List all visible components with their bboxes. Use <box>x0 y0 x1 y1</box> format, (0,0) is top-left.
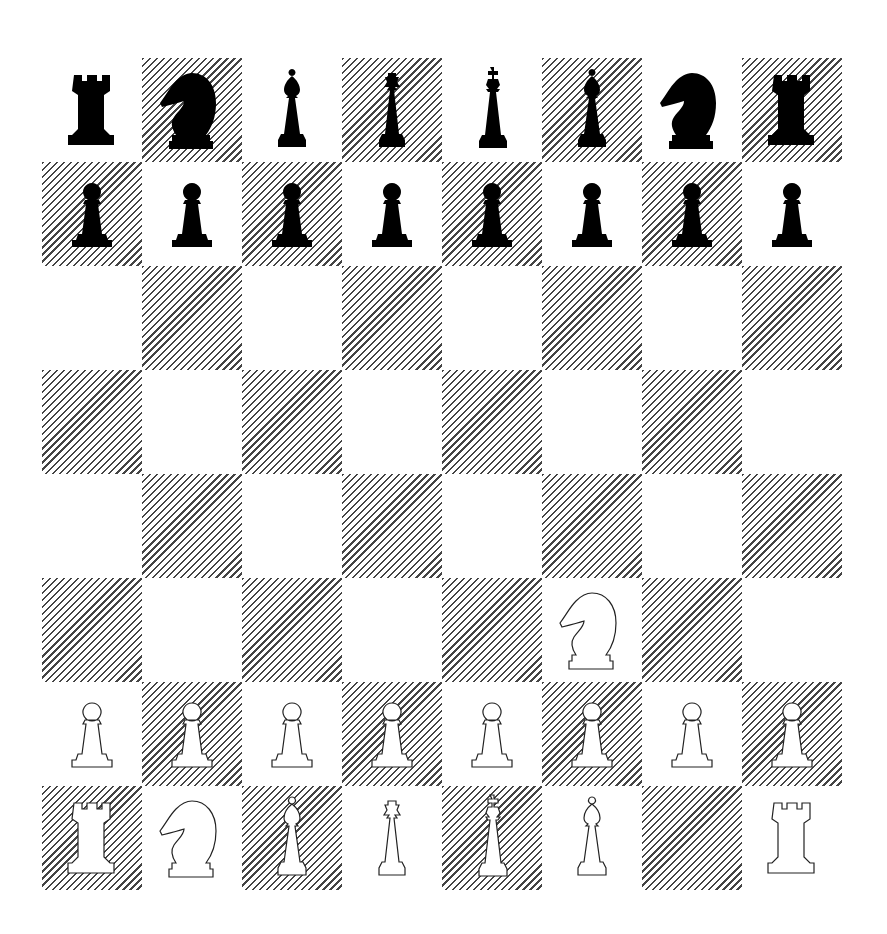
square-b6[interactable] <box>142 266 242 370</box>
square-a6[interactable] <box>42 266 142 370</box>
white-rook-icon[interactable] <box>52 790 132 886</box>
square-c6[interactable] <box>242 266 342 370</box>
square-a4[interactable] <box>42 474 142 578</box>
square-c1[interactable] <box>242 786 342 890</box>
square-b5[interactable] <box>142 370 242 474</box>
square-e4[interactable] <box>442 474 542 578</box>
black-queen-icon[interactable] <box>352 62 432 158</box>
square-a7[interactable] <box>42 162 142 266</box>
square-c2[interactable] <box>242 682 342 786</box>
white-rook-icon[interactable] <box>752 790 832 886</box>
square-f6[interactable] <box>542 266 642 370</box>
square-b2[interactable] <box>142 682 242 786</box>
black-bishop-icon[interactable] <box>552 62 632 158</box>
white-bishop-icon[interactable] <box>552 790 632 886</box>
square-h2[interactable] <box>742 682 842 786</box>
black-pawn-icon[interactable] <box>752 166 832 262</box>
square-g6[interactable] <box>642 266 742 370</box>
square-a8[interactable] <box>42 58 142 162</box>
square-e6[interactable] <box>442 266 542 370</box>
black-pawn-icon[interactable] <box>352 166 432 262</box>
chess-board <box>42 58 842 890</box>
square-c5[interactable] <box>242 370 342 474</box>
square-g3[interactable] <box>642 578 742 682</box>
square-f1[interactable] <box>542 786 642 890</box>
black-knight-icon[interactable] <box>152 62 232 158</box>
square-d6[interactable] <box>342 266 442 370</box>
white-pawn-icon[interactable] <box>752 686 832 782</box>
black-pawn-icon[interactable] <box>152 166 232 262</box>
square-d8[interactable] <box>342 58 442 162</box>
white-knight-icon[interactable] <box>552 582 632 678</box>
square-e1[interactable] <box>442 786 542 890</box>
square-b7[interactable] <box>142 162 242 266</box>
square-g4[interactable] <box>642 474 742 578</box>
black-pawn-icon[interactable] <box>52 166 132 262</box>
square-g1[interactable] <box>642 786 742 890</box>
white-pawn-icon[interactable] <box>552 686 632 782</box>
black-bishop-icon[interactable] <box>252 62 332 158</box>
square-c8[interactable] <box>242 58 342 162</box>
square-h8[interactable] <box>742 58 842 162</box>
white-pawn-icon[interactable] <box>152 686 232 782</box>
square-b4[interactable] <box>142 474 242 578</box>
square-c3[interactable] <box>242 578 342 682</box>
square-f3[interactable] <box>542 578 642 682</box>
square-e3[interactable] <box>442 578 542 682</box>
square-h1[interactable] <box>742 786 842 890</box>
square-d7[interactable] <box>342 162 442 266</box>
black-knight-icon[interactable] <box>652 62 732 158</box>
black-pawn-icon[interactable] <box>552 166 632 262</box>
white-pawn-icon[interactable] <box>352 686 432 782</box>
square-d1[interactable] <box>342 786 442 890</box>
white-pawn-icon[interactable] <box>252 686 332 782</box>
square-h5[interactable] <box>742 370 842 474</box>
square-b3[interactable] <box>142 578 242 682</box>
square-f5[interactable] <box>542 370 642 474</box>
white-knight-icon[interactable] <box>152 790 232 886</box>
square-d3[interactable] <box>342 578 442 682</box>
black-king-icon[interactable] <box>452 62 532 158</box>
square-h4[interactable] <box>742 474 842 578</box>
square-b8[interactable] <box>142 58 242 162</box>
square-b1[interactable] <box>142 786 242 890</box>
black-rook-icon[interactable] <box>52 62 132 158</box>
square-h7[interactable] <box>742 162 842 266</box>
square-f8[interactable] <box>542 58 642 162</box>
white-bishop-icon[interactable] <box>252 790 332 886</box>
square-c7[interactable] <box>242 162 342 266</box>
square-f2[interactable] <box>542 682 642 786</box>
square-d5[interactable] <box>342 370 442 474</box>
black-rook-icon[interactable] <box>752 62 832 158</box>
square-a3[interactable] <box>42 578 142 682</box>
square-d2[interactable] <box>342 682 442 786</box>
square-a1[interactable] <box>42 786 142 890</box>
square-e7[interactable] <box>442 162 542 266</box>
square-a2[interactable] <box>42 682 142 786</box>
black-pawn-icon[interactable] <box>452 166 532 262</box>
white-pawn-icon[interactable] <box>52 686 132 782</box>
square-h3[interactable] <box>742 578 842 682</box>
square-e5[interactable] <box>442 370 542 474</box>
square-a5[interactable] <box>42 370 142 474</box>
square-g5[interactable] <box>642 370 742 474</box>
square-f7[interactable] <box>542 162 642 266</box>
black-pawn-icon[interactable] <box>252 166 332 262</box>
square-g7[interactable] <box>642 162 742 266</box>
white-king-icon[interactable] <box>452 790 532 886</box>
white-queen-icon[interactable] <box>352 790 432 886</box>
square-e8[interactable] <box>442 58 542 162</box>
square-c4[interactable] <box>242 474 342 578</box>
square-h6[interactable] <box>742 266 842 370</box>
white-pawn-icon[interactable] <box>652 686 732 782</box>
square-d4[interactable] <box>342 474 442 578</box>
square-f4[interactable] <box>542 474 642 578</box>
square-g2[interactable] <box>642 682 742 786</box>
black-pawn-icon[interactable] <box>652 166 732 262</box>
white-pawn-icon[interactable] <box>452 686 532 782</box>
square-g8[interactable] <box>642 58 742 162</box>
square-e2[interactable] <box>442 682 542 786</box>
